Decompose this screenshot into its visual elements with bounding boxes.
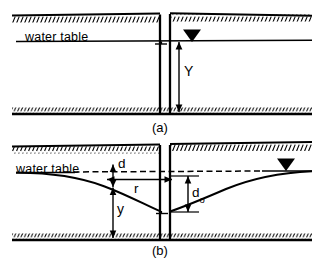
well-casing-icon-a	[160, 14, 170, 113]
panel-b-group	[12, 142, 312, 240]
dimension-line-r	[107, 176, 172, 183]
well-casing-icon-b	[160, 145, 170, 239]
water-table-label-b: water table	[16, 163, 79, 176]
dimension-label-do-base: d	[192, 185, 200, 200]
dimension-line-d	[110, 165, 117, 188]
dimension-label-y: y	[117, 202, 124, 216]
water-table-triangle-icon-b	[277, 159, 295, 172]
ground-hatch-icon-b-left	[12, 145, 160, 154]
panel-a-group	[12, 13, 312, 114]
dimension-line-y	[110, 188, 117, 239]
well-water-level-tick-b	[156, 211, 168, 214]
dimension-label-Y: Y	[184, 64, 193, 78]
well-water-level-tick-a	[155, 42, 167, 45]
panel-b-caption: (b)	[152, 244, 168, 257]
dashed-static-water-level-icon	[64, 171, 262, 172]
dimension-label-do-subscript: o	[200, 194, 205, 205]
dimension-label-do: do	[192, 186, 205, 202]
dimension-line-Y	[176, 42, 183, 112]
dimension-label-d: d	[118, 157, 126, 171]
panel-a-caption: (a)	[152, 121, 168, 134]
ground-hatch-icon-b-bottom	[12, 234, 312, 241]
ground-hatch-icon-a-right	[170, 13, 312, 21]
water-table-label-a: water table	[25, 31, 88, 44]
well-hydraulics-figure: water table Y (a) water table d r y do (…	[0, 0, 324, 263]
dimension-label-r: r	[134, 182, 139, 196]
ground-hatch-icon-a-bottom	[12, 108, 312, 115]
ground-hatch-icon-b-right	[170, 142, 312, 151]
ground-hatch-icon-a-left	[12, 14, 160, 23]
